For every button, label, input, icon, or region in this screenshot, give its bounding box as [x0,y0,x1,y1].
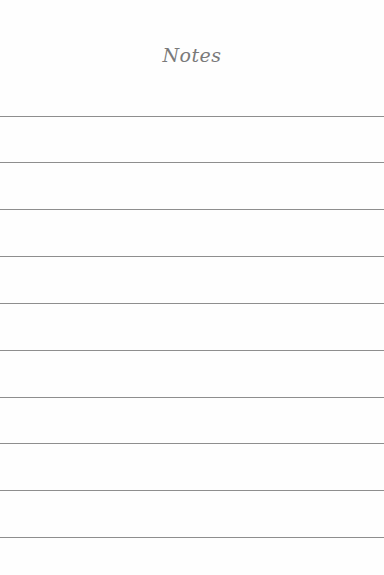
page-title: Notes [0,44,384,66]
writing-line-7 [0,397,384,398]
writing-line-4 [0,256,384,257]
writing-line-9 [0,490,384,491]
writing-line-1 [0,116,384,117]
writing-line-8 [0,443,384,444]
writing-line-10 [0,537,384,538]
writing-line-3 [0,209,384,210]
writing-line-6 [0,350,384,351]
writing-line-2 [0,162,384,163]
writing-line-5 [0,303,384,304]
notes-page: Notes [0,0,384,575]
